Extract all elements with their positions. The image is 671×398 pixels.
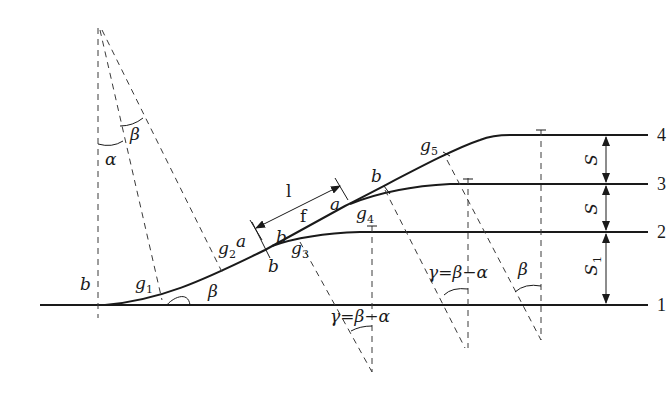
segment-label-a-g2: a	[236, 231, 246, 251]
point-label-g2: g 2	[218, 238, 236, 261]
svg-text:1: 1	[146, 283, 153, 296]
gamma-upper-arc	[444, 289, 468, 295]
gamma-upper-label: γ=β−α	[428, 262, 488, 282]
beta-base-label: β	[207, 281, 218, 301]
track-number-1: 1	[657, 295, 666, 315]
track-geometry-diagram: 4 3 2 1 S S S 1 α β β β γ=β−α γ=β−α g 1 …	[0, 0, 671, 398]
radial-beta-dash	[102, 30, 222, 272]
svg-text:S: S	[581, 264, 601, 276]
svg-text:2: 2	[229, 248, 236, 261]
dimension-l-arrow	[256, 186, 340, 228]
beta-right-arc	[515, 285, 541, 292]
point-label-g5: g 5	[420, 135, 438, 158]
point-label-g3: g 3	[291, 238, 309, 261]
svg-text:g: g	[135, 273, 146, 293]
segment-label-b-g4: b	[371, 166, 382, 186]
segment-label-b-upper: b	[276, 227, 287, 247]
track-number-4: 4	[657, 125, 666, 145]
segment-label-b-left: b	[80, 274, 91, 294]
svg-text:1: 1	[591, 256, 604, 263]
segment-label-l: l	[286, 181, 291, 201]
beta-right-label: β	[517, 259, 528, 279]
gamma-lower-arc	[351, 326, 372, 331]
spacing-label-s1: S 1	[581, 256, 604, 276]
alpha-label: α	[105, 149, 117, 169]
tick-l-left	[250, 220, 262, 240]
gamma-lower-label: γ=β−α	[330, 306, 390, 326]
beta-top-label: β	[129, 124, 140, 144]
segment-label-b-lower: b	[268, 256, 279, 276]
svg-text:g: g	[356, 203, 367, 223]
spacing-label-s-4-3: S	[581, 154, 601, 166]
segment-label-a-g4: a	[330, 194, 340, 214]
spacing-label-s-3-2: S	[581, 203, 601, 215]
alpha-arc	[98, 141, 123, 145]
svg-text:4: 4	[367, 213, 374, 226]
point-label-g4: g 4	[356, 203, 374, 226]
point-label-g1: g 1	[135, 273, 153, 296]
svg-text:5: 5	[431, 145, 438, 158]
svg-text:g: g	[218, 238, 229, 258]
track-number-3: 3	[657, 174, 666, 194]
segment-label-f: f	[300, 206, 308, 226]
track-number-2: 2	[657, 222, 666, 242]
svg-text:g: g	[420, 135, 431, 155]
track-2-line	[272, 232, 648, 246]
perp-g5-dash	[447, 160, 541, 340]
track-3-line	[350, 184, 648, 204]
connecting-track-curve	[105, 135, 648, 305]
svg-text:g: g	[291, 238, 302, 258]
svg-text:3: 3	[302, 248, 309, 261]
